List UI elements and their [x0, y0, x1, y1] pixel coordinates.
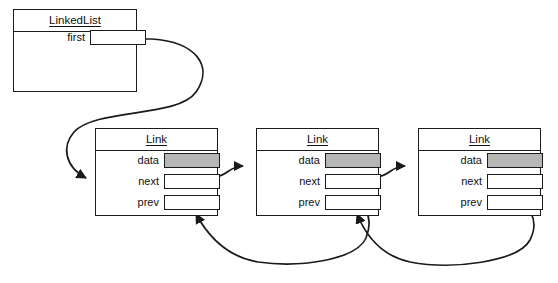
link-node-1: Link data next prev [95, 128, 218, 216]
link-node-1-field-prev: prev [121, 195, 220, 210]
link-node-2: Link data next prev [256, 128, 379, 216]
link-node-3-field-prev: prev [444, 195, 543, 210]
link-node-2-field-prev-slot[interactable] [325, 195, 381, 210]
link-node-2-field-prev: prev [282, 195, 381, 210]
link-node-1-field-data-slot[interactable] [164, 153, 220, 168]
link-node-2-field-data-label: data [282, 155, 325, 166]
link-node-1-field-prev-label: prev [121, 197, 164, 208]
link-node-3: Link data next prev [418, 128, 541, 216]
link-node-1-field-prev-slot[interactable] [164, 195, 220, 210]
link-node-2-class-name: Link [307, 133, 328, 145]
linkedlist-field-first: first [49, 30, 146, 45]
link-node-1-field-data-label: data [121, 155, 164, 166]
linkedlist-field-first-label: first [49, 32, 90, 43]
link-node-1-class-title: Link [96, 129, 217, 151]
link-node-3-field-next: next [444, 174, 543, 189]
diagram-canvas: LinkedList first Link data next prev Lin… [0, 0, 558, 283]
link-node-1-field-data: data [121, 153, 220, 168]
link-node-3-field-next-label: next [444, 176, 487, 187]
link-node-3-class-name: Link [469, 133, 490, 145]
link-node-3-field-data-slot[interactable] [487, 153, 543, 168]
link-node-3-field-next-slot[interactable] [487, 174, 543, 189]
link-node-2-class-title: Link [257, 129, 378, 151]
link-node-2-field-data-slot[interactable] [325, 153, 381, 168]
link-node-2-field-data: data [282, 153, 381, 168]
linkedlist-object-box: LinkedList [13, 9, 137, 92]
link-node-3-field-data: data [444, 153, 543, 168]
link-node-2-field-next: next [282, 174, 381, 189]
link-node-2-field-next-label: next [282, 176, 325, 187]
link-node-2-field-next-slot[interactable] [325, 174, 381, 189]
link-node-3-field-prev-slot[interactable] [487, 195, 543, 210]
link-node-1-class-name: Link [146, 133, 167, 145]
link-node-1-field-next-slot[interactable] [164, 174, 220, 189]
link-node-3-field-prev-label: prev [444, 197, 487, 208]
link-node-3-field-data-label: data [444, 155, 487, 166]
link-node-1-field-next-label: next [121, 176, 164, 187]
linkedlist-class-title: LinkedList [14, 10, 136, 32]
link-node-1-field-next: next [121, 174, 220, 189]
linkedlist-class-name: LinkedList [49, 14, 101, 26]
linkedlist-field-first-slot[interactable] [90, 30, 146, 45]
link-node-2-field-prev-label: prev [282, 197, 325, 208]
link-node-3-class-title: Link [419, 129, 540, 151]
